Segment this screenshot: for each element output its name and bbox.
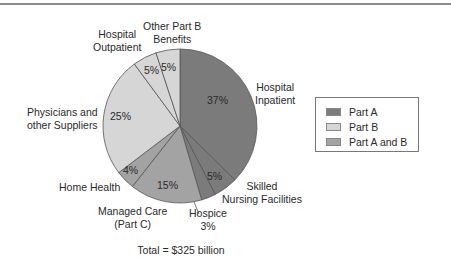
legend: Part A Part B Part A and B [315, 97, 419, 152]
label-line: (Part C) [98, 218, 167, 231]
legend-label: Part A and B [349, 136, 407, 148]
pct-other-part-b: 5% [161, 61, 176, 73]
pct-hospital-outpatient: 5% [144, 64, 159, 76]
label-managed-care: Managed Care (Part C) [98, 205, 167, 231]
legend-label: Part B [349, 121, 378, 133]
legend-item-part-b: Part B [326, 119, 418, 134]
label-line: Other Part B [143, 20, 201, 33]
pct-physicians: 25% [110, 110, 131, 122]
legend-swatch-part-a-and-b [326, 138, 341, 146]
label-line: Outpatient [93, 41, 141, 54]
pct-hospital-inpatient: 37% [207, 94, 228, 106]
label-hospital-inpatient: Hospital Inpatient [255, 81, 295, 107]
label-hospice: Hospice 3% [189, 207, 227, 233]
pct-snf: 5% [207, 170, 222, 182]
label-line: other Suppliers [27, 119, 98, 132]
label-line: Nursing Facilities [222, 193, 302, 206]
label-other-part-b: Other Part B Benefits [143, 20, 201, 46]
label-line: Physicians and [27, 106, 98, 119]
label-line: Benefits [143, 33, 201, 46]
pct-managed-care: 15% [157, 179, 178, 191]
total-caption: Total = $325 billion [0, 244, 362, 256]
label-line: Managed Care [98, 205, 167, 218]
label-line: Hospital [93, 28, 141, 41]
legend-item-part-a-and-b: Part A and B [326, 134, 418, 149]
label-line: Home Health [59, 181, 120, 193]
label-home-health: Home Health [59, 181, 120, 194]
label-line: Hospital [255, 81, 295, 94]
label-line: Skilled [222, 180, 302, 193]
legend-swatch-part-b [326, 123, 341, 131]
label-line: Hospice [189, 207, 227, 220]
label-line: 3% [189, 220, 227, 233]
label-physicians: Physicians and other Suppliers [27, 106, 98, 132]
legend-label: Part A [349, 106, 378, 118]
label-line: Inpatient [255, 94, 295, 107]
legend-item-part-a: Part A [326, 104, 418, 119]
pct-home-health: 4% [123, 164, 138, 176]
legend-swatch-part-a [326, 108, 341, 116]
label-hospital-outpatient: Hospital Outpatient [93, 28, 141, 54]
label-snf: Skilled Nursing Facilities [222, 180, 302, 206]
